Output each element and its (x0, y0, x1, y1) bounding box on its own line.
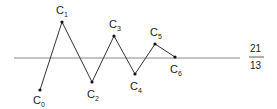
point-label-c3: C3 (109, 18, 121, 32)
point-dot-c0 (38, 88, 41, 91)
point-label-c0: C0 (33, 94, 45, 108)
point-dot-c3 (112, 34, 115, 37)
point-dot-c1 (60, 20, 63, 23)
point-label-c2: C2 (87, 88, 99, 102)
point-dot-c6 (173, 55, 176, 58)
point-label-c5: C5 (150, 26, 162, 40)
point-dot-c2 (90, 80, 93, 83)
point-dot-c4 (133, 72, 136, 75)
fraction-numerator: 21 (250, 43, 262, 54)
limit-fraction: 21 13 (249, 43, 264, 71)
points-group: C0C1C2C3C4C5C6 (33, 4, 182, 108)
point-label-c4: C4 (130, 80, 142, 94)
zigzag-diagram: C0C1C2C3C4C5C6 21 13 (0, 0, 277, 109)
point-label-c1: C1 (56, 4, 68, 18)
fraction-denominator: 13 (250, 60, 262, 71)
point-dot-c5 (153, 42, 156, 45)
point-label-c6: C6 (170, 63, 182, 77)
